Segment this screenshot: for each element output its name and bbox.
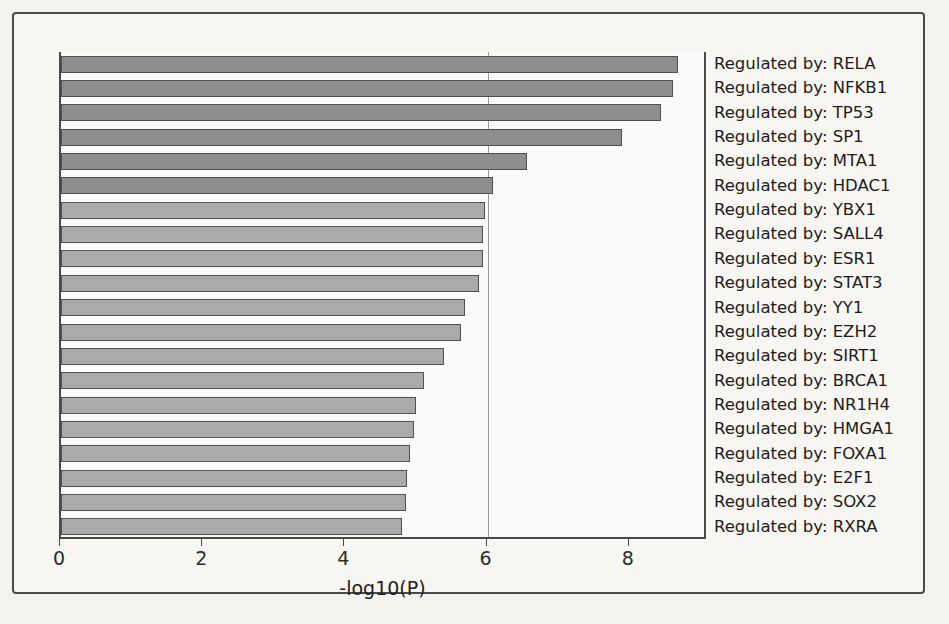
bar-row[interactable] (61, 320, 708, 344)
bar[interactable] (61, 518, 402, 535)
category-label: Regulated by: SIRT1 (714, 344, 879, 368)
bar[interactable] (61, 80, 673, 97)
bar-row[interactable] (61, 369, 708, 393)
x-tick-label: 4 (337, 547, 349, 569)
bar[interactable] (61, 250, 483, 267)
bar-row[interactable] (61, 442, 708, 466)
bar-row[interactable] (61, 417, 708, 441)
category-label: Regulated by: HMGA1 (714, 417, 894, 441)
bar[interactable] (61, 299, 465, 316)
x-tick (59, 539, 60, 546)
bar[interactable] (61, 202, 485, 219)
bar[interactable] (61, 324, 461, 341)
bar[interactable] (61, 421, 414, 438)
bar[interactable] (61, 348, 444, 365)
category-label: Regulated by: ESR1 (714, 247, 876, 271)
category-label: Regulated by: NR1H4 (714, 393, 890, 417)
bar[interactable] (61, 226, 483, 243)
bar-row[interactable] (61, 247, 708, 271)
category-label: Regulated by: SOX2 (714, 490, 877, 514)
category-label: Regulated by: YBX1 (714, 198, 876, 222)
bar-row[interactable] (61, 125, 708, 149)
bar-row[interactable] (61, 515, 708, 539)
bar-row[interactable] (61, 296, 708, 320)
bar[interactable] (61, 494, 406, 511)
bar[interactable] (61, 397, 416, 414)
x-tick (628, 539, 629, 546)
x-tick-label: 8 (622, 547, 634, 569)
bar-row[interactable] (61, 76, 708, 100)
category-label: Regulated by: FOXA1 (714, 442, 887, 466)
bar[interactable] (61, 129, 622, 146)
x-tick (201, 539, 202, 546)
bar[interactable] (61, 177, 493, 194)
bar[interactable] (61, 56, 678, 73)
figure-frame: 02468 -log10(P) Regulated by: RELARegula… (12, 12, 925, 594)
bar-row[interactable] (61, 101, 708, 125)
x-tick-label: 6 (480, 547, 492, 569)
bar[interactable] (61, 275, 479, 292)
category-label: Regulated by: YY1 (714, 296, 863, 320)
bar[interactable] (61, 153, 527, 170)
bar[interactable] (61, 104, 661, 121)
x-axis-label: -log10(P) (59, 577, 706, 599)
category-label: Regulated by: SP1 (714, 125, 864, 149)
category-label: Regulated by: STAT3 (714, 271, 883, 295)
bar-row[interactable] (61, 174, 708, 198)
x-tick-label: 2 (195, 547, 207, 569)
category-label: Regulated by: RXRA (714, 515, 878, 539)
bar[interactable] (61, 372, 424, 389)
category-label: Regulated by: SALL4 (714, 222, 884, 246)
bar-row[interactable] (61, 149, 708, 173)
bar-row[interactable] (61, 490, 708, 514)
bar-row[interactable] (61, 393, 708, 417)
bar[interactable] (61, 445, 410, 462)
category-label: Regulated by: HDAC1 (714, 174, 891, 198)
category-label: Regulated by: MTA1 (714, 149, 878, 173)
bar-row[interactable] (61, 198, 708, 222)
x-tick-label: 0 (53, 547, 65, 569)
bar-row[interactable] (61, 344, 708, 368)
category-label: Regulated by: E2F1 (714, 466, 874, 490)
category-label: Regulated by: EZH2 (714, 320, 877, 344)
x-tick (343, 539, 344, 546)
category-label: Regulated by: BRCA1 (714, 369, 888, 393)
bar-row[interactable] (61, 466, 708, 490)
category-label: Regulated by: RELA (714, 52, 875, 76)
category-label: Regulated by: TP53 (714, 101, 874, 125)
x-tick (486, 539, 487, 546)
category-labels: Regulated by: RELARegulated by: NFKB1Reg… (714, 52, 919, 539)
bar[interactable] (61, 470, 407, 487)
bar-row[interactable] (61, 52, 708, 76)
plot-area (59, 52, 706, 539)
bar-row[interactable] (61, 271, 708, 295)
category-label: Regulated by: NFKB1 (714, 76, 887, 100)
bar-series (61, 52, 704, 537)
bar-row[interactable] (61, 222, 708, 246)
